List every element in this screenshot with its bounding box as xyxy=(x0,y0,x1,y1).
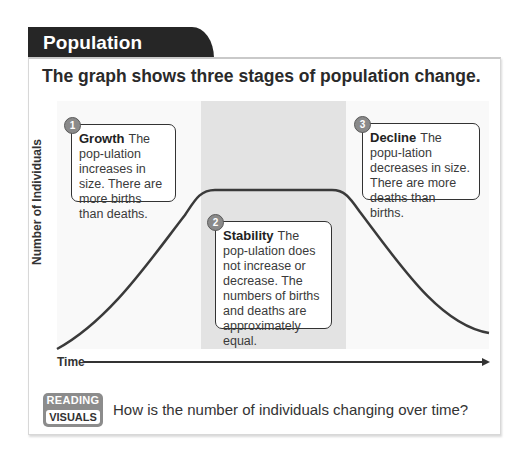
callout-decline-title: Decline xyxy=(370,130,416,145)
callout-decline: DeclineThe popu-lation decreases in size… xyxy=(362,123,480,200)
callout-growth-title: Growth xyxy=(79,131,125,146)
callout-stability-title: Stability xyxy=(223,228,274,243)
badge-visuals: VISUALS xyxy=(46,410,100,424)
stage-2-number-icon: 2 xyxy=(207,214,224,231)
stage-3-number-icon: 3 xyxy=(354,116,371,133)
reading-visuals-badge: READING VISUALS xyxy=(43,393,103,427)
y-axis-label: Number of Individuals xyxy=(30,139,44,265)
callout-growth: GrowthThe pop-ulation increases in size.… xyxy=(71,124,176,202)
badge-reading: READING xyxy=(43,394,103,406)
x-axis-label: Time xyxy=(57,355,85,369)
arrowhead-icon xyxy=(482,358,490,366)
stage-1-number-icon: 1 xyxy=(64,117,81,134)
callout-stability: StabilityThe pop-ulation does not increa… xyxy=(215,221,332,329)
reading-visuals-question: How is the number of individuals changin… xyxy=(113,401,468,418)
